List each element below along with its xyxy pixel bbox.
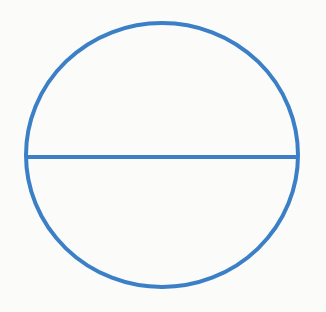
diagram-canvas bbox=[0, 0, 326, 312]
